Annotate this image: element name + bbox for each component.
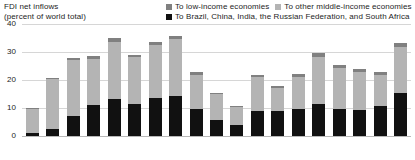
legend-label-low-income: To low-income economies [175,2,269,12]
bar-2001[interactable] [251,75,264,136]
bar-2000[interactable] [230,106,243,136]
bar-2002[interactable] [271,86,284,136]
bar-segment-2000-s1 [230,107,243,125]
chart-title-line-1: FDI net inflows [4,2,86,12]
bar-1993[interactable] [87,56,100,136]
y-tick-label-0: 0 [0,132,16,140]
bar-segment-2007-s1 [374,75,387,106]
bar-segment-2003-s0 [292,109,305,136]
bar-segment-2006-s0 [353,110,366,136]
bar-segment-1996-s1 [149,45,162,98]
bar-segment-2002-s0 [271,111,284,136]
bar-segment-1997-s0 [169,96,182,136]
legend-item-brics: To Brazil, China, India, the Russian Fed… [166,12,410,22]
bar-1996[interactable] [149,42,162,136]
chart-legend: To low-income economies To other middle-… [166,2,415,22]
bar-segment-2008-s1 [394,47,407,92]
bar-segment-2008-s0 [394,93,407,136]
bar-segment-1994-s0 [108,99,121,136]
bar-segment-1992-s0 [67,116,80,136]
bar-1995[interactable] [128,55,141,136]
legend-swatch-low-income-icon [166,4,172,10]
bar-segment-2006-s1 [353,72,366,110]
bar-1991[interactable] [46,78,59,137]
bar-segment-1993-s1 [87,59,100,105]
bar-segment-1998-s0 [190,109,203,136]
bar-segment-2004-s1 [312,57,325,103]
bar-series-layer [22,24,411,136]
bar-segment-2000-s0 [230,125,243,136]
bar-2005[interactable] [333,65,346,136]
bar-segment-1997-s1 [169,39,182,96]
axis-baseline [22,136,411,137]
legend-swatch-other-middle-income-icon [275,4,281,10]
bar-segment-1999-s1 [210,94,223,120]
legend-item-other-middle-income: To other middle-income economies [275,2,411,12]
legend-row-top: To low-income economies To other middle-… [166,2,415,12]
bar-segment-1991-s1 [46,79,59,129]
bar-2004[interactable] [312,53,325,136]
bar-2003[interactable] [292,74,305,136]
bar-segment-2005-s0 [333,109,346,136]
bar-segment-1999-s0 [210,120,223,136]
bar-segment-2003-s1 [292,77,305,109]
legend-label-other-middle-income: To other middle-income economies [284,2,411,12]
y-tick-label-30: 30 [0,48,16,56]
bar-2007[interactable] [374,72,387,136]
bar-segment-1991-s0 [46,129,59,136]
bar-1990[interactable] [26,108,39,136]
bar-1994[interactable] [108,38,121,136]
bar-segment-2007-s0 [374,106,387,136]
legend-row-bottom: To Brazil, China, India, the Russian Fed… [166,12,415,22]
y-tick-label-20: 20 [0,76,16,84]
plot-area: 010203040 199019911992199319941995199619… [22,24,411,136]
chart-title: FDI net inflows (percent of world total) [4,2,86,22]
legend-item-low-income: To low-income economies [166,2,269,12]
bar-1992[interactable] [67,58,80,136]
bar-segment-1994-s1 [108,42,121,99]
bar-segment-1990-s1 [26,109,39,133]
bar-1998[interactable] [190,72,203,136]
fdi-net-inflows-chart: FDI net inflows (percent of world total)… [0,0,415,160]
bar-segment-2002-s1 [271,88,284,110]
bar-segment-2005-s1 [333,68,346,109]
y-tick-label-10: 10 [0,104,16,112]
bar-segment-1998-s1 [190,75,203,109]
legend-label-brics: To Brazil, China, India, the Russian Fed… [175,12,410,22]
bar-2008[interactable] [394,43,407,136]
bar-segment-1996-s0 [149,98,162,136]
bar-1997[interactable] [169,36,182,137]
y-tick-label-40: 40 [0,20,16,28]
bar-segment-2001-s0 [251,111,264,136]
bar-segment-2001-s1 [251,77,264,111]
bar-segment-2004-s0 [312,104,325,136]
chart-title-line-2: (percent of world total) [4,12,86,22]
bar-segment-1995-s1 [128,57,141,104]
bar-1999[interactable] [210,93,223,136]
bar-segment-1995-s0 [128,104,141,136]
bar-2006[interactable] [353,69,366,136]
bar-segment-1990-s0 [26,133,39,136]
legend-swatch-brics-icon [166,14,172,20]
bar-segment-1993-s0 [87,105,100,136]
bar-segment-1992-s1 [67,60,80,116]
